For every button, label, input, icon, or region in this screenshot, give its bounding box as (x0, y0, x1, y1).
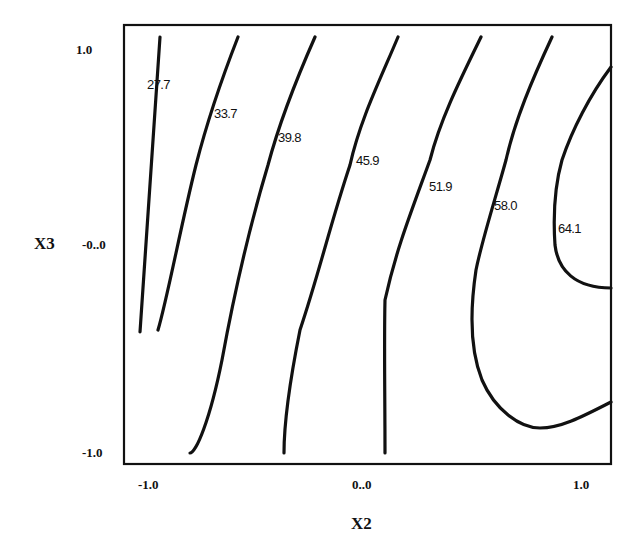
y-tick-top: 1.0 (76, 42, 92, 58)
x-tick-left: -1.0 (138, 477, 159, 493)
contour-label: 64.1 (558, 221, 581, 236)
y-axis-label: X3 (34, 234, 55, 254)
contour-line-51-9 (385, 37, 481, 453)
contour-line-33-7 (158, 37, 238, 330)
x-axis-label: X2 (351, 514, 372, 534)
x-tick-right: 1.0 (573, 477, 589, 493)
y-tick-middle: -0..0 (82, 237, 106, 253)
plot-frame (124, 25, 611, 464)
contour-label: 39.8 (278, 130, 301, 145)
contour-label: 27.7 (147, 77, 170, 92)
contour-label: 33.7 (214, 106, 237, 121)
contour-plot: 27.7 33.7 39.8 45.9 51.9 58.0 64.1 (0, 0, 637, 556)
contour-label: 45.9 (356, 153, 379, 168)
contour-label: 51.9 (429, 179, 452, 194)
contour-label: 58.0 (494, 198, 517, 213)
contour-line-64-1 (554, 67, 611, 288)
x-tick-middle: 0..0 (352, 477, 372, 493)
contour-line-39-8 (190, 37, 315, 453)
contour-line-45-9 (284, 37, 398, 453)
y-tick-bottom: -1.0 (82, 445, 103, 461)
